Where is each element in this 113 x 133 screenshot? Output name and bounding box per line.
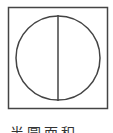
circle-diagram (0, 0, 113, 133)
diagram-caption: 半圆面积 (10, 126, 110, 133)
